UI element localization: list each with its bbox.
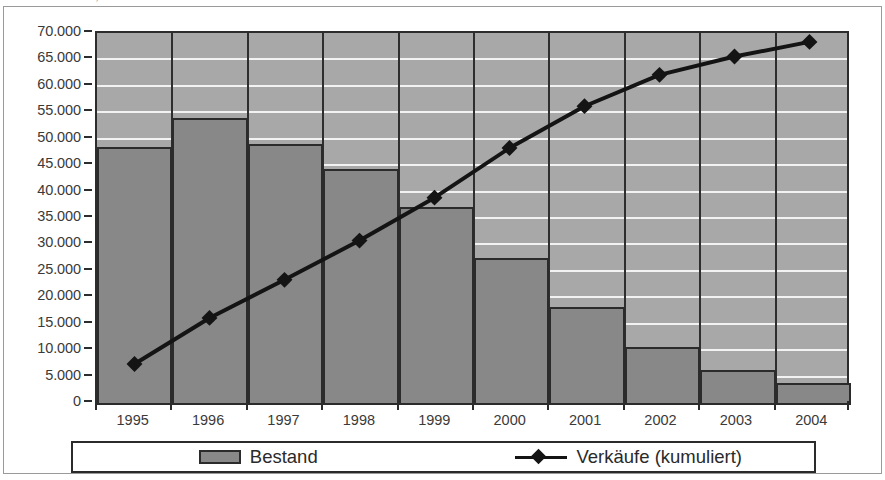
y-axis-tick-mark [84,30,92,32]
bar-swatch-icon [199,450,241,464]
y-axis-tick-label: 20.000 [37,287,81,303]
x-axis-tick-mark [246,401,248,410]
y-axis-tick-mark [84,400,92,402]
y-axis-tick-label: 40.000 [37,182,81,198]
chart-frame: 70.00065.00060.00055.00050.00045.00040.0… [3,6,882,474]
x-axis-tick-label: 1995 [117,412,149,428]
y-axis-tick-mark [84,268,92,270]
y-axis-tick-mark [84,56,92,58]
y-axis-tick-mark [84,374,92,376]
y-axis-tick-mark [84,241,92,243]
y-axis: 70.00065.00060.00055.00050.00045.00040.0… [4,31,92,401]
figure-caption-text: Abb. 17: Bestand, Neubau und Verkäufe ku… [4,0,271,3]
x-axis-tick-mark [170,401,172,410]
x-axis-tick-mark [774,401,776,410]
x-axis-tick-label: 2004 [795,412,827,428]
x-axis-tick-label: 1999 [418,412,450,428]
y-axis-tick-label: 30.000 [37,234,81,250]
y-axis-tick-mark [84,162,92,164]
x-axis-tick-label: 2003 [720,412,752,428]
figure-caption-strip: Abb. 17: Bestand, Neubau und Verkäufe ku… [0,0,885,4]
line-marker-diamond [352,233,368,249]
y-axis-tick-mark [84,189,92,191]
y-axis-tick-label: 55.000 [37,102,81,118]
chart-legend: Bestand Verkäufe (kumuliert) [71,441,816,473]
x-axis-tick-mark [321,401,323,410]
x-axis-tick-label: 2000 [494,412,526,428]
x-axis-tick-mark [472,401,474,410]
x-axis-tick-label: 2002 [644,412,676,428]
x-axis-tick-mark [547,401,549,410]
y-axis-tick-label: 0 [73,393,81,409]
y-axis-tick-label: 15.000 [37,314,81,330]
x-axis-tick-mark [95,401,97,410]
legend-entry-bestand[interactable]: Bestand [73,443,444,471]
plot-area [95,31,849,401]
legend-entry-verkaeufe[interactable]: Verkäufe (kumuliert) [444,443,815,471]
x-axis-tick-mark [847,401,849,410]
x-axis-tick-label: 1997 [267,412,299,428]
line-marker-diamond [727,49,743,65]
line-markers [127,34,818,372]
line-diamond-swatch-icon [515,449,567,465]
x-axis-tick-mark [698,401,700,410]
x-axis-tick-label: 2001 [569,412,601,428]
legend-label-verkaeufe: Verkäufe (kumuliert) [576,446,742,468]
y-axis-tick-label: 35.000 [37,208,81,224]
y-axis-tick-label: 45.000 [37,155,81,171]
y-axis-tick-mark [84,83,92,85]
y-axis-tick-label: 60.000 [37,76,81,92]
y-axis-tick-label: 50.000 [37,129,81,145]
x-axis: 1995199619971998199920002001200220032004 [95,401,849,435]
y-axis-tick-label: 25.000 [37,261,81,277]
y-axis-tick-mark [84,109,92,111]
line-marker-diamond [652,67,668,83]
y-axis-tick-mark [84,321,92,323]
y-axis-tick-label: 70.000 [37,23,81,39]
x-axis-tick-mark [623,401,625,410]
x-axis-tick-label: 1996 [192,412,224,428]
y-axis-tick-mark [84,347,92,349]
y-axis-tick-label: 65.000 [37,49,81,65]
line-series-verkaeufe [97,33,847,399]
y-axis-tick-label: 5.000 [45,367,81,383]
x-axis-tick-label: 1998 [343,412,375,428]
legend-label-bestand: Bestand [250,446,318,468]
x-axis-tick-mark [397,401,399,410]
line-marker-diamond [802,34,818,50]
line-marker-diamond [577,98,593,114]
y-axis-tick-mark [84,294,92,296]
y-axis-tick-label: 10.000 [37,340,81,356]
y-axis-tick-mark [84,215,92,217]
line-marker-diamond [277,272,293,288]
plot-inner [97,33,847,399]
line-path [135,42,810,364]
y-axis-tick-mark [84,136,92,138]
